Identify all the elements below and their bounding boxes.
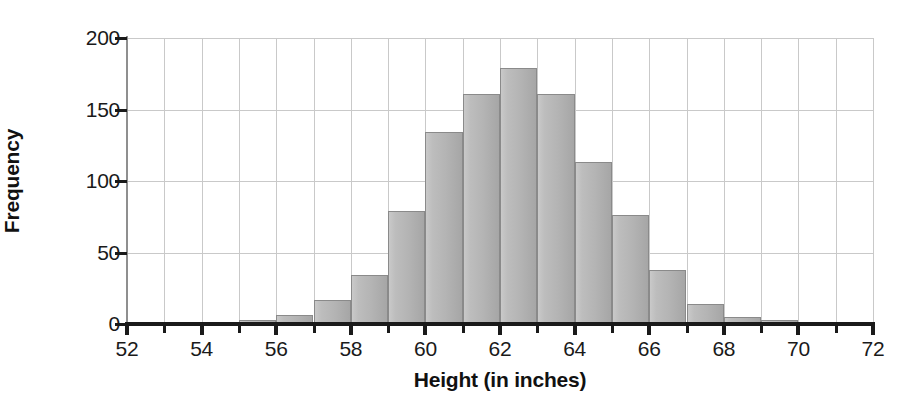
histogram-bar <box>463 94 500 324</box>
x-tick-mark <box>722 322 726 335</box>
x-tick-label: 70 <box>787 337 810 361</box>
x-tick-mark <box>796 322 800 335</box>
gridline-horizontal <box>127 38 873 39</box>
x-tick-mark <box>573 322 577 335</box>
x-tick-label: 64 <box>563 337 586 361</box>
histogram-bar <box>575 162 612 324</box>
y-tick-label: 150 <box>86 98 120 122</box>
x-tick-label: 66 <box>638 337 661 361</box>
histogram-bar <box>537 94 574 324</box>
y-tick-label: 50 <box>97 241 120 265</box>
y-tick-label: 0 <box>109 312 120 336</box>
x-tick-mark <box>200 322 204 335</box>
x-tick-label: 72 <box>862 337 885 361</box>
histogram-chart: Frequency Height (in inches) 05010015020… <box>0 0 911 418</box>
x-tick-mark <box>498 322 502 335</box>
x-tick-label: 52 <box>116 337 139 361</box>
histogram-bar <box>425 132 462 324</box>
x-tick-mark <box>462 322 465 333</box>
x-tick-mark <box>125 322 129 335</box>
plot-area <box>127 38 873 324</box>
x-tick-mark <box>423 322 427 335</box>
histogram-bar <box>612 215 649 324</box>
x-tick-mark <box>238 322 241 333</box>
x-tick-label: 56 <box>265 337 288 361</box>
x-tick-mark <box>611 322 614 333</box>
x-tick-mark <box>760 322 763 333</box>
x-tick-label: 62 <box>489 337 512 361</box>
histogram-bar <box>500 68 537 324</box>
x-tick-mark <box>835 322 838 333</box>
histogram-bar <box>351 275 388 324</box>
x-tick-label: 58 <box>339 337 362 361</box>
y-tick-label: 200 <box>86 26 120 50</box>
x-tick-mark <box>274 322 278 335</box>
x-tick-mark <box>647 322 651 335</box>
x-tick-mark <box>313 322 316 333</box>
histogram-bar <box>388 211 425 324</box>
x-tick-mark <box>349 322 353 335</box>
x-axis-title: Height (in inches) <box>127 368 873 392</box>
x-tick-label: 54 <box>190 337 213 361</box>
y-axis-title: Frequency <box>0 129 24 233</box>
x-tick-mark <box>686 322 689 333</box>
x-tick-mark <box>871 322 875 335</box>
x-tick-mark <box>163 322 166 333</box>
gridline-vertical <box>873 38 874 324</box>
y-tick-label: 100 <box>86 169 120 193</box>
histogram-bar <box>687 304 724 324</box>
histogram-bar <box>314 300 351 324</box>
x-tick-label: 68 <box>712 337 735 361</box>
x-tick-mark <box>387 322 390 333</box>
x-tick-mark <box>536 322 539 333</box>
x-tick-label: 60 <box>414 337 437 361</box>
histogram-bar <box>649 270 686 324</box>
